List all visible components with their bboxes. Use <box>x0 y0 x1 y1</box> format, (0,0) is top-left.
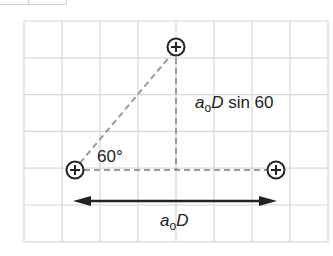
angle-label: 60° <box>97 147 123 166</box>
base-label: aoD <box>160 211 188 233</box>
atom-top-plus-circle-icon <box>168 39 185 56</box>
diagram-canvas: 60° aoD sin 60 aoD <box>0 0 333 256</box>
corner-fragment <box>0 0 67 5</box>
lattice-diagram: 60° aoD sin 60 aoD <box>0 0 333 256</box>
atom-right-plus-circle-icon <box>268 162 285 179</box>
atom-left-plus-circle-icon <box>67 162 84 179</box>
hypotenuse-dashed <box>80 55 171 163</box>
height-label: aoD sin 60 <box>195 93 274 115</box>
